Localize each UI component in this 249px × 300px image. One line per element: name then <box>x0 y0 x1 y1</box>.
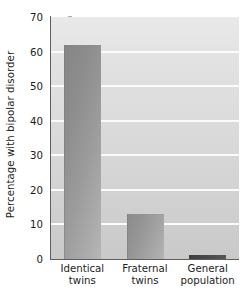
x-axis-tick-labels: IdenticaltwinsFraternaltwinsGeneralpopul… <box>51 263 239 299</box>
x-tick-label-line: General <box>176 263 239 275</box>
x-tick-label-line: twins <box>114 275 177 287</box>
y-axis-title-text: Percentage with bipolar disorder <box>6 50 17 217</box>
x-tick-label: Fraternaltwins <box>114 263 177 288</box>
y-tick-label: 0 <box>37 254 43 265</box>
bar-chart-figure: Percentage with bipolar disorder 0102030… <box>0 0 249 300</box>
y-tick-label: 50 <box>30 81 43 92</box>
y-axis-tick-labels: 010203040506070 <box>22 17 46 259</box>
bar <box>127 214 164 259</box>
y-tick-label: 20 <box>30 184 43 195</box>
x-tick-label-line: Identical <box>51 263 114 275</box>
x-tick-label-line: population <box>176 275 239 287</box>
bar <box>189 255 226 259</box>
x-tick-label: Generalpopulation <box>176 263 239 288</box>
x-tick-label-line: Fraternal <box>114 263 177 275</box>
y-tick-label: 30 <box>30 150 43 161</box>
y-tick-label: 60 <box>30 46 43 57</box>
y-tick-label: 10 <box>30 219 43 230</box>
plot-area <box>51 17 239 259</box>
bar <box>64 45 101 259</box>
y-axis-title: Percentage with bipolar disorder <box>0 0 22 268</box>
y-tick-label: 70 <box>30 12 43 23</box>
y-tick-label: 40 <box>30 115 43 126</box>
x-tick-label: Identicaltwins <box>51 263 114 288</box>
x-axis-line <box>50 259 239 260</box>
x-tick-label-line: twins <box>51 275 114 287</box>
